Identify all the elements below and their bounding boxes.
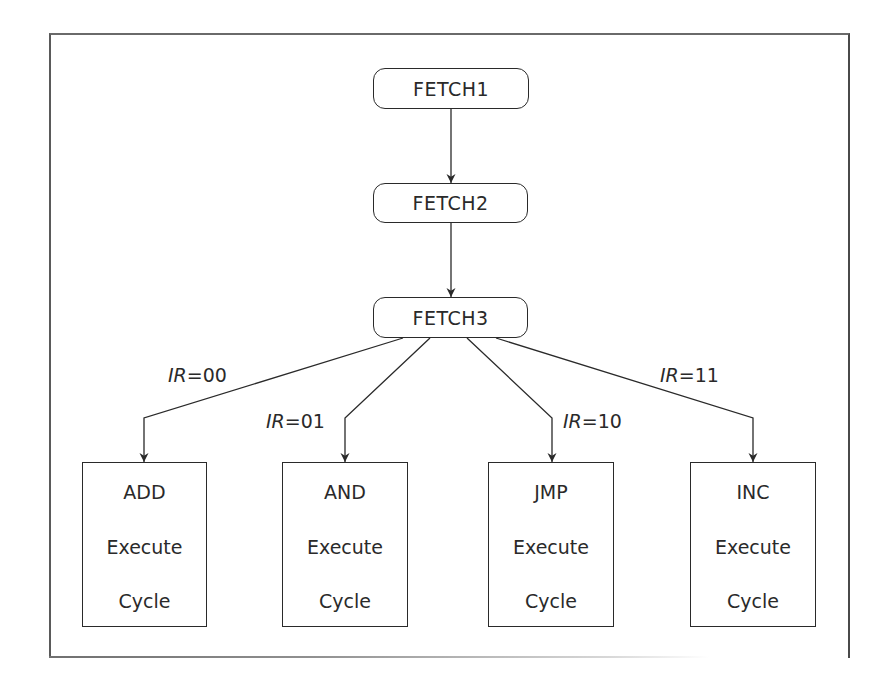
state-fetch2: FETCH2 (373, 183, 528, 223)
execute-cycle-and-name: AND (324, 481, 366, 503)
execute-cycle-inc: INC Execute Cycle (690, 462, 816, 627)
state-fetch3-label: FETCH3 (412, 307, 488, 329)
execute-label: Execute (513, 536, 589, 558)
edge-fetch3-and (345, 338, 430, 462)
edge-fetch3-inc (496, 338, 753, 462)
condition-ir-11: IR=11 (660, 364, 719, 386)
execute-cycle-add-name: ADD (123, 481, 165, 503)
execute-label: Execute (107, 536, 183, 558)
execute-cycle-and: AND Execute Cycle (282, 462, 408, 627)
execute-cycle-add: ADD Execute Cycle (82, 462, 207, 627)
condition-ir-01: IR=01 (266, 410, 325, 432)
execute-label: Execute (307, 536, 383, 558)
condition-ir-10: IR=10 (563, 410, 622, 432)
edge-fetch3-jmp (467, 338, 552, 462)
cycle-label: Cycle (525, 590, 577, 612)
execute-cycle-inc-name: INC (736, 481, 769, 503)
cycle-label: Cycle (119, 590, 171, 612)
execute-cycle-jmp: JMP Execute Cycle (488, 462, 614, 627)
cycle-label: Cycle (319, 590, 371, 612)
state-fetch3: FETCH3 (373, 297, 528, 338)
cycle-label: Cycle (727, 590, 779, 612)
state-fetch1-label: FETCH1 (413, 78, 489, 100)
state-fetch1: FETCH1 (373, 68, 529, 109)
execute-cycle-jmp-name: JMP (534, 481, 567, 503)
condition-ir-00: IR=00 (168, 364, 227, 386)
state-fetch2-label: FETCH2 (412, 192, 488, 214)
execute-label: Execute (715, 536, 791, 558)
